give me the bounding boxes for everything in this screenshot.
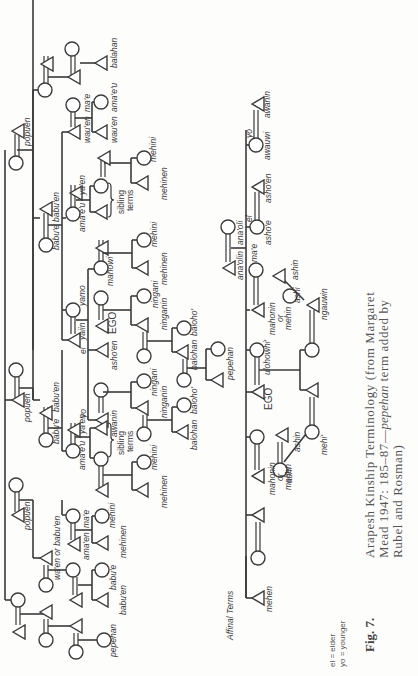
- svg-text:balohan: balohan: [189, 419, 199, 450]
- svg-text:Mead 1947: 185–87—pepehan term: Mead 1947: 185–87—pepehan term added by: [376, 299, 391, 558]
- svg-text:el: el: [244, 214, 254, 222]
- svg-text:wa'en or babu'en: wa'en or babu'en: [52, 516, 62, 580]
- svg-text:mehini: mehini: [149, 444, 159, 470]
- svg-text:asho'en: asho'en: [263, 173, 273, 203]
- svg-text:babu'e: babu'e: [51, 224, 61, 250]
- svg-text:balahan: balahan: [109, 37, 119, 68]
- svg-text:EGO: EGO: [107, 312, 118, 334]
- svg-text:baloho': baloho': [189, 308, 199, 336]
- caption-line2-suffix: term added by: [376, 299, 391, 385]
- svg-text:mehen: mehen: [283, 464, 293, 490]
- svg-text:ama'e'u: ama'e'u: [109, 82, 119, 112]
- svg-text:balohan: balohan: [189, 339, 199, 370]
- svg-text:mehinen: mehinen: [159, 252, 169, 285]
- top-grandparents-popuen: popuen: [9, 117, 33, 170]
- svg-text:el = elder: el = elder: [328, 634, 337, 667]
- svg-text:Rubel and Rosman): Rubel and Rosman): [390, 445, 405, 558]
- svg-text:pepehan: pepehan: [225, 347, 235, 381]
- svg-text:awauwi: awauwi: [262, 131, 272, 160]
- kinship-diagram: popuen balahan wau'en ma'e wau'e: [0, 0, 418, 676]
- svg-text:Arapesh Kinship Terminology (f: Arapesh Kinship Terminology (from Margar…: [362, 292, 377, 558]
- svg-text:ama'e'u: ama'e'u: [77, 202, 87, 232]
- svg-text:babu'en: babu'en: [51, 192, 61, 222]
- svg-text:terms: terms: [125, 190, 135, 211]
- svg-text:ana'oli: ana'oli: [235, 220, 245, 245]
- svg-text:mehini: mehini: [107, 502, 117, 528]
- svg-text:ashi: ashi: [292, 286, 302, 303]
- svg-text:ma'e: ma'e: [249, 244, 259, 262]
- svg-text:mehinen: mehinen: [159, 167, 169, 200]
- svg-text:ngauwin: ngauwin: [319, 288, 329, 320]
- svg-text:ama'en: ama'en: [81, 532, 91, 560]
- svg-text:ya'en: ya'en: [77, 414, 87, 435]
- svg-text:ninganin: ninganin: [159, 298, 169, 330]
- svg-text:popuen: popuen: [22, 117, 32, 147]
- affinal-tree: Affinal Terms yo awauwi awanin el asho'e…: [221, 91, 329, 641]
- svg-text:el: el: [78, 346, 88, 354]
- svg-text:babu'e: babu'e: [108, 564, 118, 590]
- figure-caption: Fig. 7. Arapesh Kinship Terminology (fro…: [362, 292, 405, 652]
- svg-text:yaiin: yaiin: [77, 322, 87, 341]
- svg-text:popuen: popuen: [22, 501, 32, 531]
- svg-text:ma'e: ma'e: [81, 510, 91, 528]
- svg-text:asho'en: asho'en: [109, 340, 119, 370]
- svg-text:pepehan: pepehan: [108, 624, 118, 658]
- svg-text:yamo: yamo: [77, 285, 87, 307]
- svg-text:ya'en: ya'en: [77, 175, 87, 196]
- legend: el = elder yo = younger: [328, 620, 347, 667]
- caption-line2-italic: pepehan: [376, 385, 391, 430]
- svg-text:terms: terms: [125, 431, 135, 452]
- svg-text:mehi': mehi': [319, 435, 329, 455]
- consanguineal-tree: popuen balahan wau'en ma'e wau'e: [5, 0, 235, 659]
- svg-text:babu'en: babu'en: [118, 585, 128, 615]
- svg-text:ana'olin: ana'olin: [235, 251, 245, 280]
- svg-text:yo = younger: yo = younger: [338, 620, 347, 667]
- svg-text:Affinal Terms: Affinal Terms: [225, 590, 235, 641]
- svg-text:mehin: mehin: [283, 307, 293, 330]
- svg-text:ama'e'u: ama'e'u: [77, 440, 87, 470]
- female-circle: [9, 156, 23, 170]
- svg-text:mehini: mehini: [149, 221, 159, 247]
- svg-text:mehen: mehen: [264, 586, 274, 612]
- svg-text:popuen: popuen: [22, 393, 32, 423]
- svg-text:babu'en: babu'en: [51, 382, 61, 412]
- kinship-figure: popuen balahan wau'en ma'e wau'e: [0, 0, 418, 676]
- svg-text:Fig. 7.: Fig. 7.: [362, 618, 377, 652]
- svg-text:baloho': baloho': [189, 386, 199, 414]
- svg-text:ma'e: ma'e: [82, 94, 92, 112]
- svg-text:asho'e: asho'e: [263, 220, 273, 245]
- svg-text:ningani: ningani: [149, 367, 159, 396]
- svg-text:EGO: EGO: [263, 388, 274, 410]
- svg-text:ninganin: ninganin: [159, 386, 169, 418]
- svg-text:yo: yo: [244, 129, 254, 139]
- svg-text:mehinen: mehinen: [118, 525, 128, 558]
- caption-line2-prefix: Mead 1947: 185–87—: [376, 429, 391, 558]
- svg-text:babu'e: babu'e: [51, 418, 61, 444]
- svg-text:ashin: ashin: [290, 259, 300, 280]
- svg-text:mehini: mehini: [148, 136, 158, 162]
- svg-text:awanin: awanin: [262, 91, 272, 118]
- svg-text:mahowi: mahowi: [105, 256, 115, 286]
- svg-text:ashin: ashin: [292, 431, 302, 452]
- svg-text:mehinen: mehinen: [159, 475, 169, 508]
- svg-text:wau'en: wau'en: [82, 116, 92, 143]
- svg-text:wau'en: wau'en: [109, 116, 119, 143]
